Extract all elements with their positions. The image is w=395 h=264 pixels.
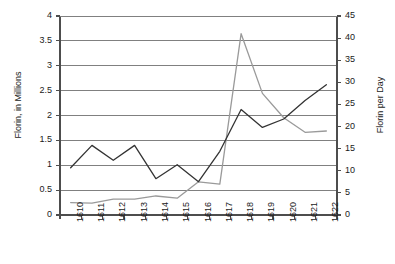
right-axis-tick-15: 15 [345,143,375,153]
x-axis-tick-1615: 1615 [181,202,191,222]
left-axis-tick-3: 3 [22,60,52,70]
right-axis-tick-45: 45 [345,10,375,20]
plot-area [0,0,395,264]
left-axis-tick-0p5: 0.5 [22,184,52,194]
x-axis-tick-1610: 1610 [75,202,85,222]
right-axis-tick-20: 20 [345,121,375,131]
x-axis-tick-1618: 1618 [245,202,255,222]
x-axis-tick-1612: 1612 [117,202,127,222]
x-axis-tick-1620: 1620 [288,202,298,222]
right-axis-tick-10: 10 [345,165,375,175]
x-axis-tick-1621: 1621 [309,202,319,222]
left-axis-tick-2: 2 [22,110,52,120]
x-axis-tick-1613: 1613 [139,202,149,222]
left-axis-tick-1: 1 [22,159,52,169]
right-axis-tick-40: 40 [345,32,375,42]
series-line-florin-millions [71,85,327,182]
right-axis-tick-0: 0 [345,209,375,219]
x-axis-tick-1614: 1614 [160,202,170,222]
x-axis-tick-1622: 1622 [330,202,340,222]
x-axis-tick-1619: 1619 [266,202,276,222]
gridlines-group [60,16,337,190]
x-axis-tick-1616: 1616 [203,202,213,222]
right-axis-tick-5: 5 [345,187,375,197]
right-axis-tick-35: 35 [345,54,375,64]
left-axis-tick-1p5: 1.5 [22,134,52,144]
left-axis-tick-3p5: 3.5 [22,35,52,45]
right-axis-tick-30: 30 [345,76,375,86]
left-axis-tick-2p5: 2.5 [22,85,52,95]
left-axis-tick-4: 4 [22,10,52,20]
right-axis-tick-25: 25 [345,98,375,108]
series-line-florin-per-day [71,34,327,203]
left-axis-tick-0: 0 [22,209,52,219]
chart-container: Florin, in Millions Florin per Day 00.51… [0,0,395,264]
x-axis-tick-1617: 1617 [224,202,234,222]
x-axis-tick-1611: 1611 [96,203,106,222]
